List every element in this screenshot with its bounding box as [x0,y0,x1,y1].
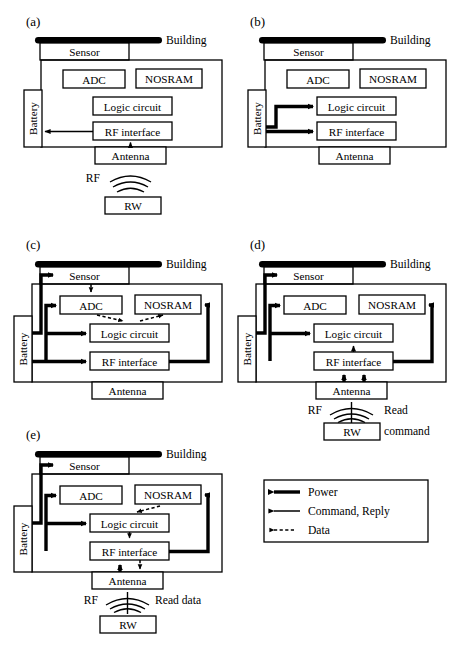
panel-a-rf-wave-1 [110,176,151,182]
panel-d-rf-label: RF interface [326,356,382,368]
panel-b-logic-label: Logic circuit [328,101,386,113]
panel-e-sensor-label: Sensor [69,460,100,472]
panel-d-sensor-label: Sensor [293,270,324,282]
panel-a-battery-label: Battery [27,102,39,135]
panel-e-tag: (e) [26,427,40,442]
panel-c: (c) Building Sensor ADC NOSRAM Logic cir… [0,228,225,418]
panel-c-arrow-logic-nosram [140,315,163,321]
panel-a-logic-label: Logic circuit [104,101,162,113]
panel-a-adc-label: ADC [82,74,106,86]
panel-e-building-label: Building [166,448,207,461]
panel-c-battery-label: Battery [17,332,29,365]
panel-b-battery-label: Battery [251,102,263,135]
panel-b-tag: (b) [250,14,265,29]
legend-label-command-reply: Command, Reply [308,505,390,518]
panel-e-rf-label: RF interface [102,546,158,558]
panel-a-antenna-label: Antenna [112,150,150,162]
panel-a-nosram-label: NOSRAM [145,73,193,85]
panel-c-antenna-label: Antenna [109,385,147,397]
panel-e-battery-label: Battery [17,522,29,555]
panel-c-rf-label: RF interface [102,356,158,368]
panel-e-arrow-nosram-logic [137,506,160,512]
panel-d-rw-label: RW [343,426,361,438]
panel-d-rf-text: RF [308,404,323,417]
legend-label-power: Power [308,486,338,499]
panel-d-logic-label: Logic circuit [325,328,383,340]
panel-b-antenna-label: Antenna [336,150,374,162]
panel-a-rf-wave-3 [117,188,144,192]
legend: Power Command, Reply Data [262,478,432,558]
panel-e-adc-label: ADC [79,490,103,502]
legend-label-data: Data [308,524,330,537]
panel-a-rf-wave-2 [113,182,148,187]
panel-b: (b) Building Sensor ADC NOSRAM Logic cir… [224,0,449,228]
panel-a: (a) Building Sensor ADC NOSRAM Logic cir… [0,0,225,228]
panel-e-rf-text: RF [84,594,99,607]
panel-c-sensor-label: Sensor [69,270,100,282]
panel-e-antenna-label: Antenna [109,575,147,587]
panel-e: (e) Building Sensor ADC NOSRAM Logic cir… [0,418,225,633]
panel-d-read-label-line2: command [384,425,430,438]
panel-c-nosram-label: NOSRAM [144,299,192,311]
panel-d-antenna-label: Antenna [333,385,371,397]
panel-b-adc-label: ADC [306,74,330,86]
panel-b-sensor-label: Sensor [293,46,324,58]
panel-a-rf-label: RF interface [105,126,161,138]
panel-b-building-label: Building [390,34,431,47]
panel-e-read-data-label: Read data [155,594,201,607]
panel-c-building-label: Building [166,258,207,271]
panel-e-nosram-label: NOSRAM [144,489,192,501]
panel-a-tag: (a) [26,14,40,29]
panel-d-building-label: Building [390,258,431,271]
panel-e-rw-label: RW [119,619,137,631]
panel-a-sensor-label: Sensor [69,46,100,58]
panel-c-tag: (c) [26,237,40,252]
panel-b-rf-label: RF interface [329,126,385,138]
panel-a-rf-text: RF [86,172,101,185]
panel-d: (d) Building Sensor ADC NOSRAM Logic cir… [224,228,449,428]
panel-b-nosram-label: NOSRAM [369,73,417,85]
panel-d-nosram-label: NOSRAM [368,299,416,311]
panel-c-arrow-adc-logic [97,315,123,321]
panel-c-adc-label: ADC [79,300,103,312]
panel-d-bottom: RW command [224,420,449,460]
panel-e-logic-label: Logic circuit [101,518,159,530]
panel-a-building-label: Building [166,34,207,47]
panel-b-arrow-battery-logic [266,107,313,128]
panel-d-tag: (d) [250,237,265,252]
panel-d-adc-label: ADC [303,300,327,312]
panel-d-read-label-line1: Read [384,404,408,417]
panel-d-battery-label: Battery [241,332,253,365]
panel-a-rw-label: RW [124,200,142,212]
panel-c-logic-label: Logic circuit [101,328,159,340]
